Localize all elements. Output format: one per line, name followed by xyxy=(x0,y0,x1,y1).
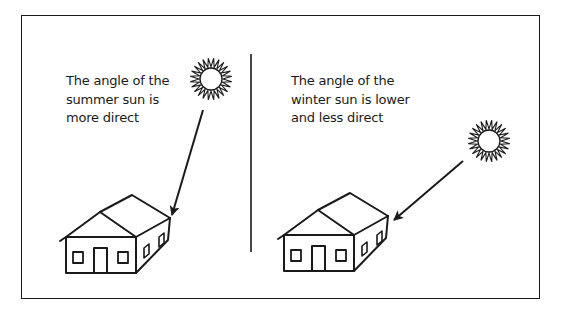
winter-sun-icon xyxy=(468,120,510,162)
summer-caption: The angle of the summer sun is more dire… xyxy=(66,72,169,128)
caption-line: summer sun is xyxy=(66,91,169,110)
summer-sun-icon xyxy=(190,58,232,100)
winter-sun-ray-arrow xyxy=(394,161,463,220)
winter-caption: The angle of the winter sun is lower and… xyxy=(291,72,410,128)
winter-house-icon xyxy=(278,193,388,271)
summer-house-icon xyxy=(60,195,170,273)
caption-line: and less direct xyxy=(291,109,410,128)
diagram-artwork xyxy=(0,0,562,321)
caption-line: more direct xyxy=(66,109,169,128)
caption-line: winter sun is lower xyxy=(291,91,410,110)
caption-line: The angle of the xyxy=(66,72,169,91)
summer-sun-ray-arrow xyxy=(172,110,203,215)
caption-line: The angle of the xyxy=(291,72,410,91)
